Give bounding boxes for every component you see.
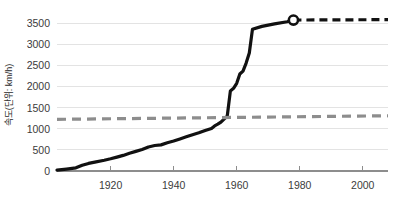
chart-canvas: 0500100015002000250030003500 19201940196… xyxy=(0,0,396,202)
series-line-2 xyxy=(57,116,388,120)
y-tick-label-3500: 3500 xyxy=(27,17,51,29)
y-tick-label-1500: 1500 xyxy=(27,102,51,114)
y-axis-tick-labels: 0500100015002000250030003500 xyxy=(27,17,51,177)
y-tick-label-3000: 3000 xyxy=(27,38,51,50)
y-tick-label-0: 0 xyxy=(44,165,50,177)
x-tick-label-1960: 1960 xyxy=(225,179,249,191)
y-tick-label-2000: 2000 xyxy=(27,80,51,92)
data-markers xyxy=(289,15,298,24)
x-axis-tick-labels: 19201940196019802000 xyxy=(99,179,375,191)
gridlines xyxy=(57,23,388,149)
x-tick-label-1980: 1980 xyxy=(288,179,312,191)
x-tick-label-2000: 2000 xyxy=(351,179,375,191)
x-axis-tick-marks xyxy=(111,166,363,171)
marker-record-endpoint xyxy=(289,15,298,24)
y-tick-label-1000: 1000 xyxy=(27,123,51,135)
y-axis-title: 속도(단위: km/h) xyxy=(4,64,14,127)
x-tick-label-1920: 1920 xyxy=(99,179,123,191)
data-series xyxy=(57,20,388,171)
x-tick-label-1940: 1940 xyxy=(162,179,186,191)
series-line-0 xyxy=(57,20,293,170)
speed-record-chart: 0500100015002000250030003500 19201940196… xyxy=(0,0,396,202)
y-tick-label-2500: 2500 xyxy=(27,59,51,71)
y-tick-label-500: 500 xyxy=(32,144,50,156)
